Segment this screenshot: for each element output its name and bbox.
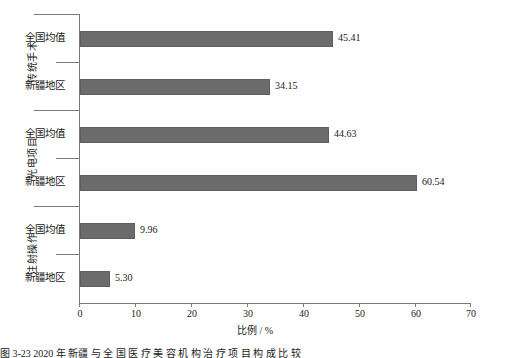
bar-chart-plot-area: 传统手术 光电项目 注射操作 全国均值 45.41 新疆地区 34.15 全国均… — [0, 0, 510, 358]
bar-g3-national — [80, 223, 135, 239]
xtick-label-40: 40 — [289, 308, 319, 320]
bar-value-g3-national: 9.96 — [140, 222, 158, 238]
category-separator-g2 — [56, 158, 80, 159]
xtick-20 — [191, 303, 192, 307]
xtick-40 — [303, 303, 304, 307]
category-label-g2-xinjiang: 新疆地区 — [14, 176, 76, 188]
figure-caption: 图 3-23 2020 年 新疆 与 全 国 医 疗 美 容 机 构 治 疗 项… — [0, 348, 510, 358]
xtick-label-50: 50 — [345, 308, 375, 320]
x-axis-title: 比例 / % — [0, 322, 510, 337]
xtick-label-10: 10 — [121, 308, 151, 320]
group-separator-2 — [34, 206, 80, 207]
bar-g2-xinjiang — [80, 175, 417, 191]
xtick-70 — [470, 303, 471, 307]
figure-container: 传统手术 光电项目 注射操作 全国均值 45.41 新疆地区 34.15 全国均… — [0, 0, 510, 358]
bar-value-g3-xinjiang: 5.30 — [115, 270, 133, 286]
xtick-50 — [359, 303, 360, 307]
bar-g1-national — [80, 31, 333, 47]
bar-value-g1-national: 45.41 — [338, 30, 361, 46]
bar-value-g2-national: 44.63 — [334, 126, 357, 142]
category-label-g1-xinjiang: 新疆地区 — [14, 80, 76, 92]
xtick-30 — [247, 303, 248, 307]
xtick-label-0: 0 — [65, 308, 95, 320]
category-label-g1-national: 全国均值 — [14, 32, 76, 44]
xtick-0 — [79, 303, 80, 307]
xtick-label-70: 70 — [456, 308, 486, 320]
category-label-g3-national: 全国均值 — [14, 224, 76, 236]
value-axis-line — [79, 303, 471, 304]
group-separator-top — [34, 14, 80, 15]
xtick-label-30: 30 — [233, 308, 263, 320]
xtick-10 — [135, 303, 136, 307]
bar-value-g2-xinjiang: 60.54 — [422, 174, 445, 190]
category-label-g2-national: 全国均值 — [14, 128, 76, 140]
xtick-label-60: 60 — [401, 308, 431, 320]
group-separator-1 — [34, 110, 80, 111]
bar-g3-xinjiang — [80, 271, 110, 287]
bar-value-g1-xinjiang: 34.15 — [275, 78, 298, 94]
category-label-g3-xinjiang: 新疆地区 — [14, 272, 76, 284]
category-separator-g1 — [56, 62, 80, 63]
xtick-label-20: 20 — [177, 308, 207, 320]
category-separator-g3 — [56, 254, 80, 255]
bar-g2-national — [80, 127, 329, 143]
bar-g1-xinjiang — [80, 79, 270, 95]
category-axis-line — [79, 14, 80, 304]
xtick-60 — [415, 303, 416, 307]
